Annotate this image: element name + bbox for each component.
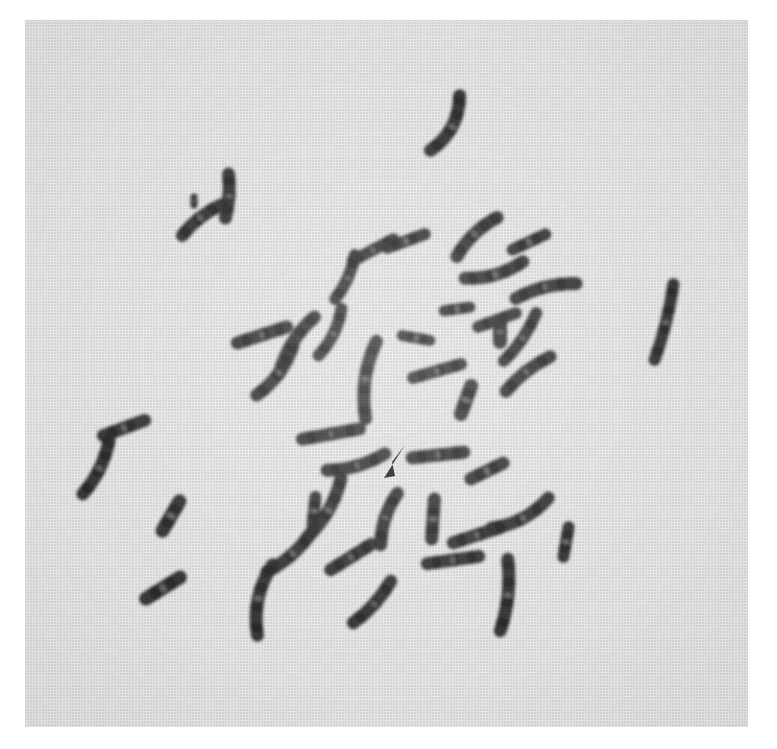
figure-root — [0, 0, 777, 749]
arrowhead-marker-svg — [25, 20, 748, 727]
arrowhead-icon — [384, 445, 405, 478]
chromosome-micrograph-plate — [25, 20, 748, 727]
annotation-layer — [25, 20, 748, 727]
